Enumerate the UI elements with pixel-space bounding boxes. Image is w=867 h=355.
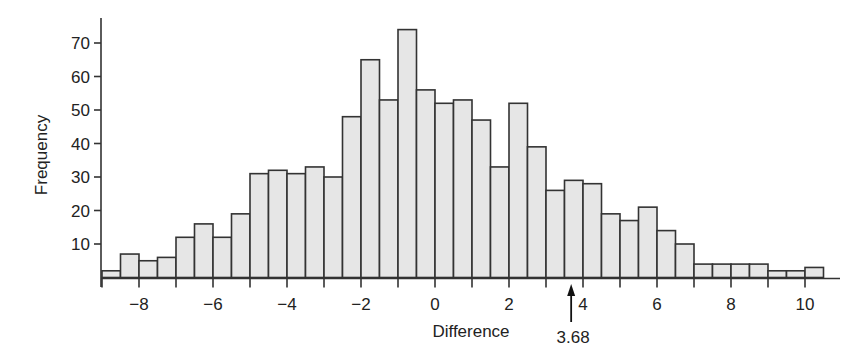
- histogram-chart: 10203040506070 −8−6−4−20246810 Frequency…: [0, 0, 867, 355]
- histogram-bar: [195, 224, 214, 278]
- y-tick-label: 10: [71, 235, 90, 254]
- y-axis: 10203040506070: [71, 18, 101, 287]
- histogram-bar: [269, 170, 288, 277]
- histogram-bar: [528, 147, 547, 278]
- histogram-bars: [102, 30, 824, 278]
- histogram-bar: [639, 207, 658, 277]
- y-tick-label: 60: [71, 68, 90, 87]
- x-tick-label: 8: [726, 295, 735, 314]
- histogram-bar: [491, 167, 510, 278]
- x-axis: −8−6−4−20246810: [101, 279, 840, 315]
- histogram-bar: [565, 180, 584, 277]
- y-tick-label: 30: [71, 168, 90, 187]
- x-tick-label: −8: [129, 295, 148, 314]
- y-tick-label: 40: [71, 135, 90, 154]
- histogram-bar: [417, 90, 436, 278]
- histogram-bar: [454, 100, 473, 278]
- histogram-bar: [121, 254, 140, 277]
- histogram-bar: [657, 231, 676, 278]
- histogram-bar: [750, 264, 769, 277]
- histogram-bar: [380, 100, 399, 278]
- x-tick-label: −6: [203, 295, 222, 314]
- histogram-bar: [676, 244, 695, 278]
- histogram-bar: [713, 264, 732, 277]
- x-tick-label: −4: [277, 295, 296, 314]
- histogram-bar: [158, 257, 177, 277]
- y-tick-label: 20: [71, 202, 90, 221]
- x-tick-label: 10: [796, 295, 815, 314]
- histogram-bar: [361, 60, 380, 278]
- histogram-bar: [509, 103, 528, 277]
- histogram-bar: [306, 167, 325, 278]
- histogram-bar: [583, 184, 602, 278]
- histogram-bar: [787, 271, 806, 278]
- histogram-bar: [287, 174, 306, 278]
- histogram-bar: [102, 271, 121, 278]
- y-axis-title: Frequency: [32, 114, 51, 195]
- histogram-bar: [250, 174, 269, 278]
- y-tick-label: 70: [71, 34, 90, 53]
- x-tick-label: 6: [652, 295, 661, 314]
- histogram-bar: [768, 271, 787, 278]
- histogram-bar: [620, 221, 639, 278]
- x-tick-label: 4: [578, 295, 587, 314]
- x-tick-label: 2: [504, 295, 513, 314]
- histogram-bar: [602, 214, 621, 278]
- annotation-label: 3.68: [557, 328, 590, 347]
- histogram-bar: [213, 237, 232, 277]
- y-tick-label: 50: [71, 101, 90, 120]
- histogram-bar: [139, 261, 158, 278]
- histogram-bar: [343, 117, 362, 278]
- x-tick-label: 0: [430, 295, 439, 314]
- annotation-arrow: 3.68: [557, 284, 590, 347]
- histogram-bar: [232, 214, 251, 278]
- histogram-bar: [398, 30, 417, 278]
- x-tick-label: −2: [351, 295, 370, 314]
- histogram-bar: [731, 264, 750, 277]
- x-axis-title: Difference: [432, 322, 509, 341]
- histogram-bar: [694, 264, 713, 277]
- histogram-bar: [805, 267, 824, 277]
- histogram-bar: [472, 120, 491, 277]
- histogram-bar: [176, 237, 195, 277]
- histogram-bar: [435, 103, 454, 277]
- histogram-bar: [324, 177, 343, 278]
- histogram-bar: [546, 190, 565, 277]
